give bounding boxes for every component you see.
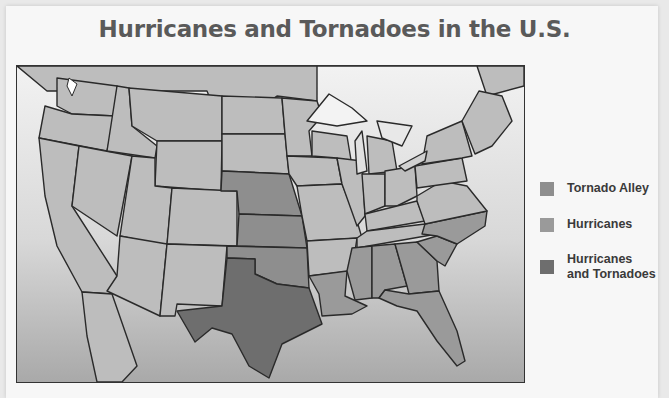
state-mississippi bbox=[347, 246, 372, 300]
legend-swatch-tornado-alley bbox=[540, 182, 554, 196]
state-ohio bbox=[385, 166, 417, 206]
legend-label: Tornado Alley bbox=[567, 181, 649, 196]
legend-item-tornado-alley: Tornado Alley bbox=[540, 181, 649, 196]
state-iowa bbox=[287, 156, 342, 186]
legend-item-hurricanes: Hurricanes bbox=[540, 217, 632, 232]
state-kansas bbox=[237, 214, 307, 248]
state-florida bbox=[379, 290, 465, 366]
legend-swatch-hurricanes bbox=[540, 218, 554, 232]
state-new-mexico bbox=[160, 244, 227, 316]
legend-label: Hurricanes bbox=[567, 217, 632, 232]
legend-label-line1: Hurricanes bbox=[567, 252, 656, 267]
legend-label-line2: and Tornadoes bbox=[567, 267, 656, 282]
region-baja bbox=[82, 292, 137, 382]
state-wyoming bbox=[155, 141, 222, 191]
state-montana bbox=[129, 88, 222, 141]
region-new-england bbox=[462, 91, 512, 154]
us-map-svg bbox=[17, 66, 524, 382]
us-map bbox=[16, 65, 525, 383]
lake-michigan bbox=[355, 131, 367, 174]
state-colorado bbox=[167, 188, 237, 246]
state-indiana bbox=[362, 174, 385, 214]
legend-swatch-hurricanes-and-tornadoes bbox=[540, 260, 554, 274]
state-south-dakota bbox=[222, 134, 289, 174]
map-title: Hurricanes and Tornadoes in the U.S. bbox=[0, 16, 669, 42]
legend-item-hurricanes-and-tornadoes: Hurricanes and Tornadoes bbox=[540, 252, 656, 282]
state-north-dakota bbox=[222, 96, 285, 134]
legend-label: Hurricanes and Tornadoes bbox=[567, 252, 656, 282]
